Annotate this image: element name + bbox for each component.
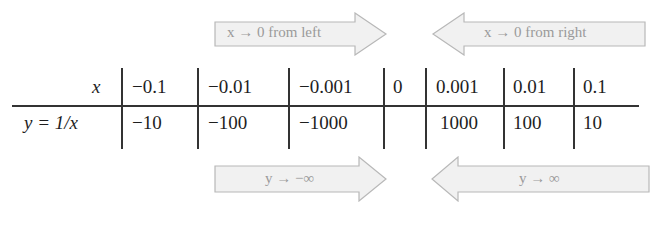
table-column-divider <box>425 68 427 149</box>
x-value: −0.1 <box>132 77 166 96</box>
arrow-label: y → −∞ <box>265 170 314 187</box>
arrow-y-to-neg-infinity: y → −∞ <box>213 156 389 202</box>
y-value: −10 <box>132 113 162 132</box>
arrow-y-to-infinity: y → ∞ <box>430 156 652 202</box>
y-value: −1000 <box>299 113 348 132</box>
x-value: 0.01 <box>513 77 546 96</box>
table-column-divider <box>573 68 575 149</box>
arrow-label: y → ∞ <box>519 170 560 187</box>
y-value: 100 <box>513 113 542 132</box>
table-horizontal-rule <box>12 105 639 107</box>
table-column-divider <box>288 68 290 149</box>
x-value: 0.001 <box>436 77 479 96</box>
y-value: 10 <box>583 113 602 132</box>
table-column-divider <box>121 68 123 149</box>
arrow-label: x → 0 from left <box>227 24 321 41</box>
x-value: 0 <box>393 77 403 96</box>
row-header-x: x <box>92 77 100 96</box>
row-header-y: y = 1/x <box>24 113 78 132</box>
x-value: −0.001 <box>299 77 352 96</box>
x-value: −0.01 <box>208 77 252 96</box>
table-column-divider <box>503 68 505 149</box>
table-column-divider <box>197 68 199 149</box>
arrow-x-to-0-from-right: x → 0 from right <box>430 12 648 56</box>
y-value: −100 <box>208 113 247 132</box>
table-column-divider <box>383 68 385 149</box>
y-value: 1000 <box>440 113 478 132</box>
x-value: 0.1 <box>583 77 607 96</box>
arrow-label: x → 0 from right <box>484 24 587 41</box>
arrow-x-to-0-from-left: x → 0 from left <box>213 12 389 56</box>
